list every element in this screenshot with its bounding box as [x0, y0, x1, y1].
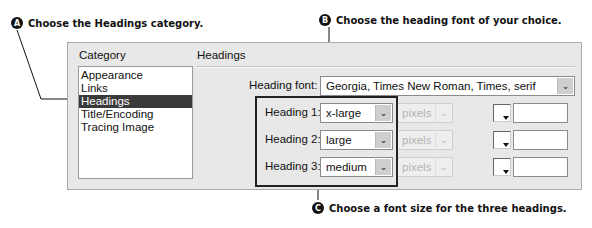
category-list[interactable]: Appearance Links Headings Title/Encoding…	[78, 66, 193, 179]
heading-1-color-picker[interactable]	[493, 104, 511, 122]
chevron-down-icon: ⌄	[435, 159, 451, 175]
chevron-down-icon[interactable]: ⌄	[557, 78, 573, 94]
category-label: Category	[79, 49, 126, 61]
color-swatch-icon	[503, 170, 509, 174]
category-item-links[interactable]: Links	[79, 82, 192, 95]
heading-2-size-value: large	[326, 134, 352, 146]
heading-1-size-value: x-large	[326, 107, 361, 119]
heading-font-select[interactable]: Georgia, Times New Roman, Times, serif ⌄	[320, 76, 575, 96]
heading-1-color-input[interactable]	[513, 103, 568, 123]
category-item-appearance[interactable]: Appearance	[79, 69, 192, 82]
callout-c: C Choose a font size for the three headi…	[312, 202, 567, 214]
page-properties-panel: Category Headings Appearance Links Headi…	[67, 42, 582, 190]
chevron-down-icon[interactable]: ⌄	[375, 159, 391, 175]
callout-badge-b: B	[319, 14, 331, 26]
heading-1-unit-select: pixels ⌄	[396, 103, 453, 123]
heading-2-unit-value: pixels	[402, 134, 431, 146]
chevron-down-icon: ⌄	[435, 105, 451, 121]
heading-2-label: Heading 2:	[265, 133, 321, 145]
heading-2-color-picker[interactable]	[493, 131, 511, 149]
category-item-title-encoding[interactable]: Title/Encoding	[79, 108, 192, 121]
callout-b-text: Choose the heading font of your choice.	[336, 15, 562, 26]
section-title: Headings	[197, 49, 246, 61]
heading-3-unit-value: pixels	[402, 161, 431, 173]
heading-3-color-picker[interactable]	[493, 158, 511, 176]
callout-badge-a: A	[11, 17, 23, 29]
heading-3-size-select[interactable]: medium ⌄	[320, 157, 393, 177]
heading-1-size-select[interactable]: x-large ⌄	[320, 103, 393, 123]
heading-3-color-input[interactable]	[513, 157, 568, 177]
heading-1-label: Heading 1:	[265, 106, 321, 118]
heading-3-size-value: medium	[326, 161, 367, 173]
chevron-down-icon[interactable]: ⌄	[375, 105, 391, 121]
category-item-headings[interactable]: Headings	[79, 95, 192, 108]
callout-b: B Choose the heading font of your choice…	[319, 14, 562, 26]
callout-a-text: Choose the Headings category.	[28, 18, 203, 29]
heading-3-unit-select: pixels ⌄	[396, 157, 453, 177]
category-item-tracing-image[interactable]: Tracing Image	[79, 121, 192, 134]
heading-2-unit-select: pixels ⌄	[396, 130, 453, 150]
callout-badge-c: C	[312, 202, 324, 214]
heading-2-size-select[interactable]: large ⌄	[320, 130, 393, 150]
heading-font-label: Heading font:	[249, 79, 317, 91]
callout-c-text: Choose a font size for the three heading…	[329, 203, 567, 214]
heading-2-color-input[interactable]	[513, 130, 568, 150]
section-divider	[196, 66, 575, 68]
callout-a: A Choose the Headings category.	[11, 17, 203, 29]
color-swatch-icon	[503, 116, 509, 120]
heading-3-label: Heading 3:	[265, 160, 321, 172]
heading-font-value: Georgia, Times New Roman, Times, serif	[326, 80, 536, 92]
heading-1-unit-value: pixels	[402, 107, 431, 119]
chevron-down-icon: ⌄	[435, 132, 451, 148]
color-swatch-icon	[503, 143, 509, 147]
chevron-down-icon[interactable]: ⌄	[375, 132, 391, 148]
